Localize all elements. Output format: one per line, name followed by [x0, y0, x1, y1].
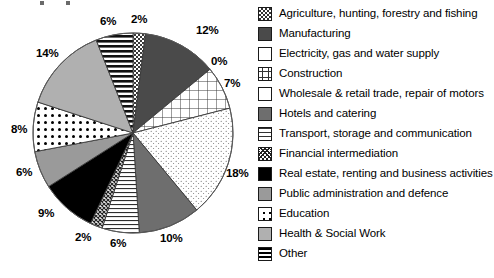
legend-item-hotels[interactable]: Hotels and catering — [258, 104, 494, 124]
legend-swatch-agriculture — [258, 7, 272, 21]
slice-label-real-estate: 9% — [38, 208, 54, 220]
slice-label-transport: 6% — [110, 238, 126, 250]
slice-label-electricity: 0% — [211, 56, 227, 68]
legend-swatch-other — [258, 247, 272, 261]
legend-label-transport: Transport, storage and communication — [279, 128, 472, 140]
legend-label-manufacturing: Manufacturing — [279, 28, 351, 40]
legend-label-financial: Financial intermediation — [279, 148, 398, 160]
slice-label-manufacturing: 12% — [196, 25, 218, 37]
legend-item-other[interactable]: Other — [258, 244, 494, 264]
legend-label-other: Other — [279, 248, 307, 260]
legend-item-electricity[interactable]: Electricity, gas and water supply — [258, 44, 494, 64]
legend-label-wholesale: Wholesale & retail trade, repair of moto… — [279, 88, 484, 100]
pie-chart-area: 6% 2% 12% 0% 7% 18% 10% 6% 2% 9% 6% 8% 1… — [0, 0, 268, 278]
legend-item-health[interactable]: Health & Social Work — [258, 224, 494, 244]
legend-item-agriculture[interactable]: Agriculture, hunting, forestry and fishi… — [258, 4, 494, 24]
pie-svg — [0, 0, 268, 278]
slice-label-other: 6% — [100, 16, 116, 28]
slice-label-hotels: 10% — [160, 233, 182, 245]
legend-item-wholesale[interactable]: Wholesale & retail trade, repair of moto… — [258, 84, 494, 104]
legend-swatch-education — [258, 207, 272, 221]
legend-label-public-admin: Public administration and defence — [279, 188, 448, 200]
legend-swatch-electricity — [258, 47, 272, 61]
legend-swatch-real-estate — [258, 167, 272, 181]
pie-slices — [33, 33, 233, 233]
legend: Agriculture, hunting, forestry and fishi… — [258, 4, 494, 264]
legend-label-education: Education — [279, 208, 329, 220]
legend-item-real-estate[interactable]: Real estate, renting and business activi… — [258, 164, 494, 184]
legend-swatch-construction — [258, 67, 272, 81]
legend-swatch-transport — [258, 127, 272, 141]
legend-swatch-public-admin — [258, 187, 272, 201]
slice-label-education: 8% — [11, 124, 27, 136]
slice-label-health: 14% — [36, 48, 58, 60]
slice-label-agriculture: 2% — [131, 14, 147, 26]
legend-swatch-wholesale — [258, 87, 272, 101]
legend-item-construction[interactable]: Construction — [258, 64, 494, 84]
legend-label-construction: Construction — [279, 68, 342, 80]
legend-label-health: Health & Social Work — [279, 228, 385, 240]
legend-label-agriculture: Agriculture, hunting, forestry and fishi… — [279, 8, 477, 20]
slice-label-wholesale: 18% — [226, 168, 248, 180]
legend-item-public-admin[interactable]: Public administration and defence — [258, 184, 494, 204]
slice-label-public-admin: 6% — [16, 167, 32, 179]
legend-item-manufacturing[interactable]: Manufacturing — [258, 24, 494, 44]
legend-swatch-financial — [258, 147, 272, 161]
legend-swatch-manufacturing — [258, 27, 272, 41]
legend-swatch-hotels — [258, 107, 272, 121]
legend-item-financial[interactable]: Financial intermediation — [258, 144, 494, 164]
legend-item-education[interactable]: Education — [258, 204, 494, 224]
slice-label-construction: 7% — [224, 78, 240, 90]
legend-label-electricity: Electricity, gas and water supply — [279, 48, 439, 60]
legend-label-real-estate: Real estate, renting and business activi… — [279, 168, 493, 180]
legend-swatch-health — [258, 227, 272, 241]
pie-chart-figure: 6% 2% 12% 0% 7% 18% 10% 6% 2% 9% 6% 8% 1… — [0, 0, 494, 278]
legend-item-transport[interactable]: Transport, storage and communication — [258, 124, 494, 144]
legend-label-hotels: Hotels and catering — [279, 108, 376, 120]
slice-label-financial: 2% — [75, 232, 91, 244]
